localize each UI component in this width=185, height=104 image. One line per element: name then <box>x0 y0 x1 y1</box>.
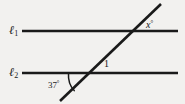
angle-label-x: x° <box>146 20 153 30</box>
line-label-l2: ℓ2 <box>9 66 18 80</box>
line-label-l2-subscript: 2 <box>14 71 18 80</box>
degree-symbol-icon: ° <box>150 19 153 27</box>
line-label-l1: ℓ1 <box>9 24 18 38</box>
geometry-figure: ℓ1 ℓ2 x° 1 37° <box>0 0 185 104</box>
line-label-l1-subscript: 1 <box>14 29 18 38</box>
angle-label-37: 37° <box>48 80 59 90</box>
angle-label-1: 1 <box>104 59 109 69</box>
degree-symbol-icon: ° <box>57 79 60 86</box>
angle-label-37-value: 37 <box>48 80 57 90</box>
diagram-canvas <box>0 0 185 104</box>
